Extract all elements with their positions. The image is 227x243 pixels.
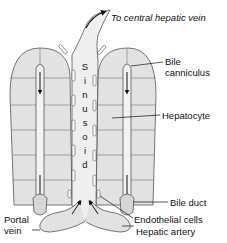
left-hepatocyte-plate [10, 48, 72, 215]
right-hepatocyte-plate [96, 48, 156, 215]
sinusoid-letter: o [80, 130, 90, 144]
sinusoid-letter: S [80, 60, 90, 74]
bile-canniculus-label-line2: canniculus [165, 67, 210, 78]
sinusoid-letter: s [80, 116, 90, 130]
sinusoid-label: S i n u s o i d [80, 60, 90, 172]
bile-duct-label: Bile duct [170, 197, 206, 208]
portal-vein-label-line2: vein [4, 225, 21, 236]
sinusoid-letter: i [80, 74, 90, 88]
hepatocyte-label: Hepatocyte [162, 110, 210, 121]
sinusoid-letter: n [80, 88, 90, 102]
portal-vein-label-line1: Portal [4, 214, 29, 225]
endothelial-cells-label: Endothelial cells [134, 214, 203, 225]
bile-canniculus-label-line1: Bile [165, 56, 181, 67]
sinusoid-letter: d [80, 158, 90, 172]
sinusoid-letter: i [80, 144, 90, 158]
hepatic-artery-label: Hepatic artery [136, 226, 195, 237]
central-vein-label: To central hepatic vein [111, 12, 206, 23]
sinusoid-letter: u [80, 102, 90, 116]
